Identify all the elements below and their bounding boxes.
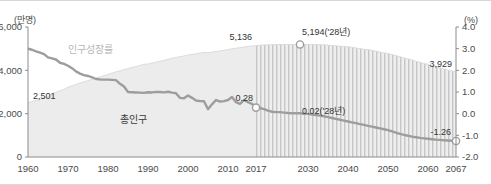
x-axis-tick-labels: 1960197019801990200020102017203020402050…: [17, 163, 466, 174]
growth-rate-2017-marker: [252, 104, 259, 111]
annotation-population-2017: 5,136: [229, 32, 252, 42]
chart-canvas: (만명) (%) 02,0004,0006,000 -2.0-1.00.01.0…: [0, 1, 491, 185]
right-tick-5: 3.0: [462, 43, 475, 54]
left-tick-1: 2,000: [0, 108, 22, 119]
right-tick-0: -2.0: [462, 151, 478, 162]
right-tick-6: 4.0: [462, 21, 475, 32]
annotation-growth-rate-2017: 0.28: [235, 93, 253, 103]
x-tick-11: 2067: [445, 163, 466, 174]
x-tick-4: 2000: [177, 163, 198, 174]
x-tick-9: 2050: [377, 163, 398, 174]
x-tick-2: 1980: [97, 163, 118, 174]
x-tick-1: 1970: [57, 163, 78, 174]
x-tick-3: 1990: [137, 163, 158, 174]
series-label-growth-rate: 인구성장률: [68, 44, 113, 55]
x-tick-6: 2017: [245, 163, 266, 174]
left-axis-tick-labels: 02,0004,0006,000: [0, 21, 22, 162]
annotation-growth-rate-2028: 0.02('28년): [302, 106, 345, 116]
x-tick-10: 2060: [417, 163, 438, 174]
right-tick-1: -1.0: [462, 130, 478, 141]
left-tick-2: 4,000: [0, 65, 22, 76]
left-tick-0: 0: [17, 151, 22, 162]
right-axis-tick-labels: -2.0-1.00.01.02.03.04.0: [462, 21, 478, 162]
x-tick-0: 1960: [17, 163, 38, 174]
right-tick-3: 1.0: [462, 86, 475, 97]
x-tick-5: 2010: [217, 163, 238, 174]
annotation-population-peak: 5,194('28년): [302, 27, 350, 37]
annotation-population-2067: 3,929: [429, 59, 452, 69]
x-tick-7: 2030: [297, 163, 318, 174]
right-tick-2: 0.0: [462, 108, 475, 119]
series-label-total-population: 총인구: [120, 114, 147, 125]
peak-population-marker: [296, 41, 303, 48]
annotation-population-1960: 2,501: [33, 91, 56, 101]
annotation-growth-rate-2067: -1.26: [430, 127, 451, 137]
x-tick-8: 2040: [337, 163, 358, 174]
left-tick-3: 6,000: [0, 21, 22, 32]
population-projection-chart: (만명) (%) 02,0004,0006,000 -2.0-1.00.01.0…: [0, 0, 491, 185]
right-tick-4: 2.0: [462, 65, 475, 76]
